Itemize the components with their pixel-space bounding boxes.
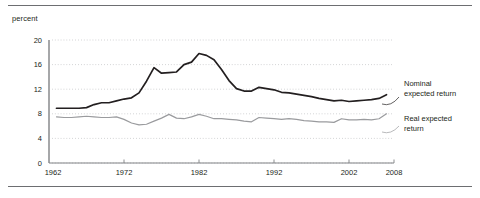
x-tick-label: 1982 (179, 168, 219, 177)
chart-figure: percent 048121620 1962197219821992200220… (0, 0, 480, 198)
x-tick-label: 1972 (104, 168, 144, 177)
series-line-nominal-expected-return (57, 54, 387, 109)
x-axis-ticks-group (124, 160, 394, 164)
nominal-leader-line (382, 97, 399, 105)
y-tick-label: 8 (22, 109, 42, 118)
series-label-real-expected-return: Real expected return (404, 114, 452, 133)
data-series-group (57, 54, 387, 125)
gridlines-group (52, 40, 394, 163)
x-tick-label: 1992 (254, 168, 294, 177)
x-tick-label: 2002 (329, 168, 369, 177)
series-line-real-expected-return (57, 114, 387, 125)
real-leader-line (382, 126, 399, 133)
axis-lines-group (49, 40, 394, 163)
x-tick-label: 2008 (374, 168, 414, 177)
y-tick-label: 0 (22, 159, 42, 168)
y-tick-label: 20 (22, 36, 42, 45)
y-tick-label: 16 (22, 60, 42, 69)
y-tick-label: 12 (22, 85, 42, 94)
x-tick-label: 1962 (33, 168, 73, 177)
y-tick-label: 4 (22, 134, 42, 143)
series-label-nominal-expected-return: Nominal expected return (404, 79, 456, 98)
